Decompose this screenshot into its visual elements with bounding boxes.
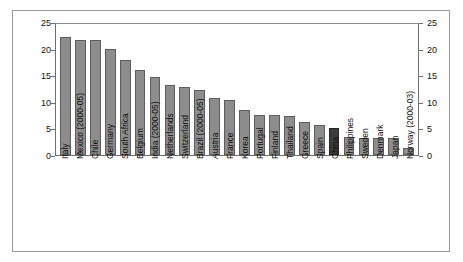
y-tick-label: 5 [25, 125, 51, 134]
x-label-cell: India (2000-05) [147, 157, 162, 249]
x-tick-label: China [330, 137, 339, 159]
y-tick-label: 20 [25, 45, 51, 54]
x-label-cell: Netherlands [162, 157, 177, 249]
x-tick-label: Austria [210, 133, 219, 159]
x-label-cell: Austria [207, 157, 222, 249]
chart-figure: 0510152025 0510152025 ItalyMexico (2000-… [12, 10, 450, 252]
x-label-cell: Chile [87, 157, 102, 249]
y-axis-left: 0510152025 [25, 23, 51, 156]
x-tick-label: Portugal [255, 127, 264, 159]
x-tick-label: France [225, 133, 234, 159]
y-tick-label: 15 [25, 72, 51, 81]
x-tick-label: Denmark [375, 125, 384, 159]
x-tick-label: Mexico (2000-05) [75, 93, 84, 159]
x-tick-label: Germany [105, 124, 114, 159]
bar-column [327, 24, 342, 155]
x-tick-label: Belgium [135, 128, 144, 159]
x-label-cell: South Africa [117, 157, 132, 249]
y-axis-right: 0510152025 [423, 23, 449, 156]
bar-italy [60, 37, 71, 155]
x-label-cell: Germany [102, 157, 117, 249]
x-label-cell: Spain [312, 157, 327, 249]
x-tick-label: Norway (2000-03) [405, 91, 414, 159]
x-label-cell: Switzerland [177, 157, 192, 249]
x-label-cell: Mexico (2000-05) [72, 157, 87, 249]
y-tick-label: 25 [427, 19, 453, 28]
x-label-cell: Philippines [342, 157, 357, 249]
y-tick-mark [419, 156, 423, 157]
x-label-cell: Korea [237, 157, 252, 249]
y-tick-label: 10 [427, 98, 453, 107]
x-tick-label: Korea [240, 136, 249, 159]
bar-chile [90, 40, 101, 155]
x-label-cell: France [222, 157, 237, 249]
x-tick-label: Greece [300, 131, 309, 159]
bar-column [58, 24, 73, 155]
x-axis-labels: ItalyMexico (2000-05)ChileGermanySouth A… [55, 157, 419, 249]
y-tick-label: 20 [427, 45, 453, 54]
x-tick-label: Philippines [345, 118, 354, 159]
y-tick-label: 10 [25, 98, 51, 107]
x-label-cell: Finland [267, 157, 282, 249]
x-label-cell: Brazil (2000-05) [192, 157, 207, 249]
y-tick-mark [419, 76, 423, 77]
x-tick-label: Switzerland [180, 115, 189, 159]
x-tick-label: Spain [315, 137, 324, 159]
x-tick-label: Sweden [360, 128, 369, 159]
x-tick-label: Japan [390, 136, 399, 159]
x-tick-label: Chile [90, 140, 99, 159]
x-label-cell: Sweden [357, 157, 372, 249]
y-tick-mark [419, 50, 423, 51]
x-tick-label: Finland [270, 131, 279, 159]
x-tick-label: Brazil (2000-05) [195, 99, 204, 159]
x-label-cell: Thailand [282, 157, 297, 249]
x-tick-label: Italy [60, 143, 69, 159]
x-tick-label: India (2000-05) [150, 101, 159, 159]
y-tick-label: 25 [25, 19, 51, 28]
y-tick-label: 15 [427, 72, 453, 81]
x-label-cell: Norway (2000-03) [402, 157, 417, 249]
x-tick-label: South Africa [120, 113, 129, 159]
y-tick-label: 0 [25, 152, 51, 161]
y-tick-label: 5 [427, 125, 453, 134]
x-label-cell: Belgium [132, 157, 147, 249]
x-tick-label: Netherlands [165, 113, 174, 159]
y-tick-mark [419, 103, 423, 104]
x-label-cell: Denmark [372, 157, 387, 249]
x-label-cell: China [327, 157, 342, 249]
bar-column [88, 24, 103, 155]
y-tick-mark [419, 23, 423, 24]
x-tick-label: Thailand [285, 126, 294, 159]
x-label-cell: Greece [297, 157, 312, 249]
x-label-cell: Japan [387, 157, 402, 249]
y-tick-label: 0 [427, 152, 453, 161]
y-tick-mark [419, 129, 423, 130]
x-label-cell: Portugal [252, 157, 267, 249]
x-label-cell: Italy [57, 157, 72, 249]
bar-column [312, 24, 327, 155]
